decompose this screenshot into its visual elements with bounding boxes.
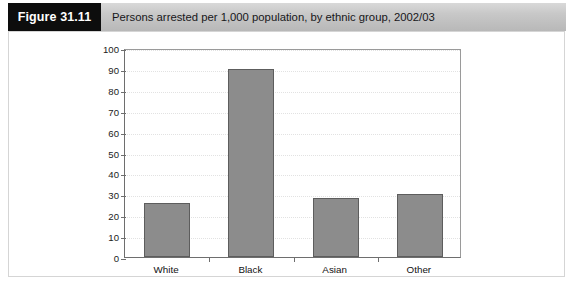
y-axis-tick-label: 10 — [108, 232, 119, 243]
y-axis-tick-label: 100 — [103, 44, 119, 55]
y-axis-tick — [121, 71, 126, 72]
y-axis-tick — [121, 113, 126, 114]
plot-area — [124, 49, 461, 258]
bar-asian — [313, 198, 359, 257]
y-axis-tick — [121, 155, 126, 156]
bar-white — [144, 203, 190, 257]
gridline — [125, 155, 460, 156]
gridline — [125, 71, 460, 72]
bar-black — [228, 69, 274, 257]
figure-header-bar: Figure 31.11 Persons arrested per 1,000 … — [8, 3, 566, 31]
x-axis-label-other: Other — [407, 264, 432, 275]
x-axis-tick — [209, 257, 210, 262]
y-axis-tick — [121, 50, 126, 51]
gridline — [125, 113, 460, 114]
y-axis-tick-label: 20 — [108, 211, 119, 222]
y-axis-labels: 0102030405060708090100 — [96, 49, 119, 258]
y-axis-tick-label: 40 — [108, 169, 119, 180]
y-axis-tick-label: 70 — [108, 106, 119, 117]
figure-number-label: Figure 31.11 — [8, 3, 101, 31]
chart-plot — [124, 49, 461, 258]
y-axis-tick — [121, 217, 126, 218]
bar-other — [397, 194, 443, 257]
x-axis-tick — [378, 257, 379, 262]
x-axis-tick — [294, 257, 295, 262]
y-axis-tick — [121, 175, 126, 176]
y-axis-tick-label: 30 — [108, 190, 119, 201]
y-axis-tick — [121, 92, 126, 93]
gridline — [125, 175, 460, 176]
y-axis-tick-label: 80 — [108, 85, 119, 96]
figure-caption: Persons arrested per 1,000 population, b… — [112, 3, 435, 31]
x-axis-label-black: Black — [238, 264, 262, 275]
x-axis-label-white: White — [154, 264, 179, 275]
gridline — [125, 134, 460, 135]
y-axis-tick — [121, 134, 126, 135]
x-axis-label-asian: Asian — [322, 264, 347, 275]
y-axis-tick — [121, 196, 126, 197]
y-axis-tick — [121, 238, 126, 239]
y-axis-tick-label: 60 — [108, 127, 119, 138]
y-axis-tick — [121, 259, 126, 260]
y-axis-tick-label: 50 — [108, 148, 119, 159]
gridline — [125, 92, 460, 93]
y-axis-tick-label: 0 — [114, 253, 119, 264]
figure-container: Figure 31.11 Persons arrested per 1,000 … — [0, 0, 574, 288]
gridline — [125, 50, 460, 51]
y-axis-tick-label: 90 — [108, 64, 119, 75]
